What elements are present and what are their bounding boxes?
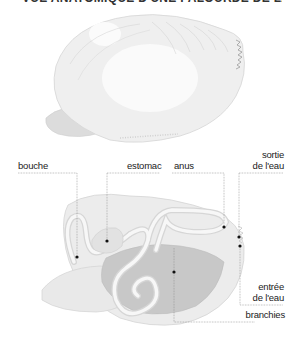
label-entree-line1: entrée (240, 281, 284, 292)
label-sortie-line1: sortie (240, 149, 284, 160)
marker-bouche (75, 255, 78, 258)
marker-anus (222, 225, 225, 228)
label-sortie-de-leau: sortie de l'eau (240, 149, 284, 171)
marker-sortie (237, 235, 240, 238)
label-bouche: bouche (18, 160, 48, 171)
marker-entree (238, 244, 241, 247)
label-entree-line2: de l'eau (240, 292, 284, 303)
label-entree-de-leau: entrée de l'eau (240, 281, 284, 303)
closed-shell-illustration (46, 15, 245, 143)
label-anus: anus (174, 160, 194, 171)
leader-sortie (239, 173, 283, 236)
label-branchies: branchies (230, 309, 285, 320)
label-estomac: estomac (127, 160, 162, 171)
clam-anatomy-illustration (42, 194, 244, 325)
label-sortie-line2: de l'eau (240, 160, 284, 171)
marker-branchies (172, 270, 175, 273)
marker-estomac (105, 239, 108, 242)
